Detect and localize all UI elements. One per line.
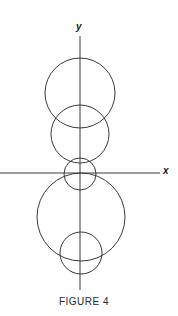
figure-caption: FIGURE 4 <box>0 297 168 307</box>
y-axis-label: y <box>76 22 82 32</box>
x-axis-label: x <box>163 166 169 176</box>
circle-lower-large <box>37 173 125 261</box>
circle-bottom-small <box>60 232 102 274</box>
circles <box>37 58 125 274</box>
figure-diagram <box>0 0 178 316</box>
